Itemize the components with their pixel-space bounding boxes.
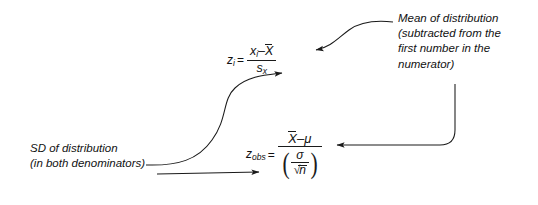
zobs-left-paren: (: [282, 152, 289, 174]
zi-num-minus: –: [258, 44, 265, 58]
zi-equals: =: [236, 53, 245, 67]
sd-to-zobs-arrow: [157, 172, 259, 174]
zobs-num-xbar: X: [288, 132, 297, 145]
zobs-lhs: zobs: [246, 147, 267, 162]
mean-label-line-1: Mean of distribution: [398, 11, 501, 26]
zi-denominator: sx: [253, 61, 270, 77]
zi-lhs: zi: [227, 53, 236, 68]
zobs-den-sqrt-n: √n: [291, 163, 309, 177]
sd-of-distribution-label: SD of distribution (in both denominators…: [30, 141, 145, 171]
zobs-equals: =: [267, 148, 276, 162]
mean-to-zobs-arrow: [337, 84, 455, 145]
mean-to-zi-arrow: [316, 21, 393, 50]
zobs-den-sigma: σ: [293, 148, 306, 162]
zobs-standard-error-fraction: σ √n: [291, 148, 309, 177]
figure-canvas: Mean of distribution (subtracted from th…: [0, 0, 538, 205]
mean-label-line-2: (subtracted from the: [398, 26, 501, 41]
zobs-radicand-n: n: [299, 164, 306, 176]
zobs-lhs-subscript: obs: [252, 152, 266, 162]
zobs-num-mu: μ: [304, 131, 311, 146]
sqrt-group: √n: [294, 164, 306, 176]
sd-label-line-2: (in both denominators): [30, 156, 145, 171]
formula-z-observed: zobs = X–μ ( σ √n ): [246, 131, 324, 178]
sd-label-line-1: SD of distribution: [30, 141, 145, 156]
zi-fraction: xi–X sx: [245, 44, 278, 77]
zobs-right-paren: ): [310, 152, 317, 174]
zobs-paren-group: ( σ √n ): [281, 148, 319, 177]
zi-numerator: xi–X: [247, 44, 276, 60]
mean-label-line-3: first number in the: [398, 41, 501, 56]
mean-label-line-4: numerator): [398, 57, 501, 72]
zi-num-xbar: X: [265, 45, 273, 58]
zobs-fraction: X–μ ( σ √n ): [276, 131, 324, 178]
formula-z-individual: zi = xi–X sx: [227, 44, 278, 77]
zobs-denominator: ( σ √n ): [278, 147, 322, 178]
mean-of-distribution-label: Mean of distribution (subtracted from th…: [398, 11, 501, 72]
zi-den-subscript: x: [263, 66, 267, 76]
zobs-numerator: X–μ: [285, 131, 314, 146]
zi-lhs-subscript: i: [233, 58, 235, 68]
